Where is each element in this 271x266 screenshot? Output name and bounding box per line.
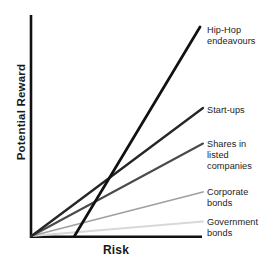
series-label-corporate-bonds: Corporate bonds [207, 187, 248, 209]
risk-reward-chart: Potential Reward Risk Hip-Hop endeavours… [0, 0, 271, 266]
series-line-shares-in-listed-companies [32, 144, 204, 237]
y-axis-title: Potential Reward [15, 47, 27, 177]
series-label-government-bonds: Government bonds [207, 217, 258, 239]
series-line-start-ups [32, 108, 204, 236]
series-label-shares-in-listed-companies: Shares in listed companies [207, 139, 252, 172]
series-label-hip-hop-endeavours: Hip-Hop endeavours [207, 25, 256, 47]
series-line-hip-hop-endeavours [75, 27, 201, 236]
series-label-start-ups: Start-ups [207, 105, 245, 116]
x-axis-title: Risk [30, 243, 202, 257]
